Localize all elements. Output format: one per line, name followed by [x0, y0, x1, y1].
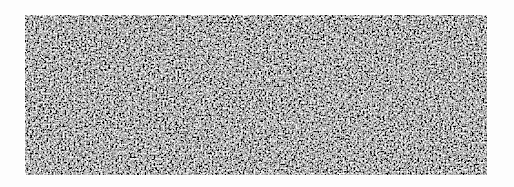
noise-texture [25, 15, 487, 175]
fiber-texture-image [25, 15, 487, 175]
